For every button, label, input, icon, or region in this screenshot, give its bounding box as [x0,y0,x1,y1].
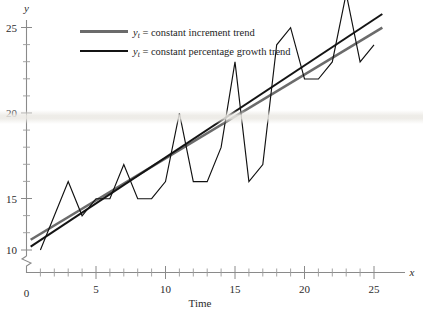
y-tick-label-10: 10 [6,244,18,256]
time-series-trend-chart: 25 20 15 10 y 0 [0,0,423,311]
chart-figure: 25 20 15 10 y 0 [0,0,423,311]
x-axis-symbol-label: x [409,266,415,278]
x-tick-label-20: 20 [299,283,311,295]
x-tick-label-5: 5 [93,283,99,295]
legend-label-constant-percentage-growth: yt = constant percentage growth trend [132,46,291,59]
observed-series-line [40,0,374,250]
origin-label: 0 [24,287,30,299]
legend: yt = constant increment trend yt = const… [80,27,291,60]
y-axis-break-icon [22,256,31,273]
x-axis-ticks-major: 5 10 15 20 25 [93,266,380,295]
trend-line-constant-increment [31,28,383,240]
y-tick-label-25: 25 [6,22,18,34]
x-tick-label-10: 10 [160,283,172,295]
x-tick-label-15: 15 [230,283,242,295]
y-axis-symbol-label: y [23,2,29,14]
y-axis-ticks-major: 25 20 15 10 [6,22,32,257]
y-axis [22,20,31,273]
x-tick-label-25: 25 [369,283,381,295]
y-tick-label-15: 15 [6,193,18,205]
legend-label-constant-increment: yt = constant increment trend [132,27,255,40]
y-tick-label-20: 20 [6,107,18,119]
x-axis-title: Time [189,297,212,309]
